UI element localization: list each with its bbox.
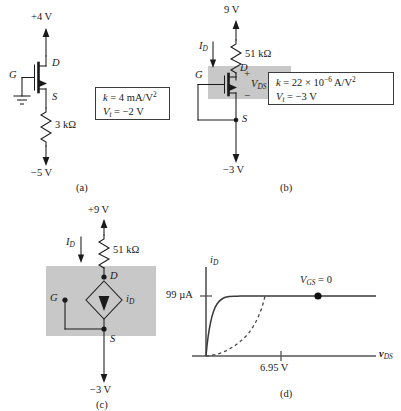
panel-a-param-vt-eq: = (114, 106, 120, 117)
panel-d-curve-dashed (206, 296, 265, 356)
panel-b-param-k-exponent: −6 (324, 75, 332, 84)
panel-b-param-k-unit: A/V (332, 77, 352, 88)
panel-b-param-k-value: 22 × 10 (292, 77, 324, 88)
panel-c-supply-top-label: +9 V (88, 205, 109, 216)
mosfet-body-arrow (39, 80, 48, 87)
panel-d-tag: (d) (280, 388, 292, 399)
panel-b-param-vt-value: −3 V (296, 91, 317, 102)
panel-b-vds-label: VDS (251, 79, 266, 90)
panel-b-param-k: k = 22 × 10−6 A/V2 (276, 76, 387, 90)
figure-canvas: +4 V D G S 3 kΩ −5 V (a) k = 4 mA/V2 Vt … (0, 0, 401, 411)
panel-c-tag: (c) (96, 399, 108, 410)
panel-a-source-label: S (52, 92, 57, 103)
panel-a-param-k: k = 4 mA/V2 (103, 91, 163, 105)
panel-a-param-vt-value: −2 V (123, 106, 144, 117)
panel-b-parameter-box: k = 22 × 10−6 A/V2 Vt = −3 V (268, 72, 394, 105)
panel-c: +9 V ID 51 kΩ D G iD S −3 V (c) (20, 205, 195, 411)
panel-c-schematic (20, 205, 195, 411)
panel-c-resistor-label: 51 kΩ (113, 245, 139, 256)
panel-c-drain-label: D (110, 271, 118, 282)
panel-b-param-k-unit-exponent: 2 (352, 75, 356, 84)
panel-d: iD vDS 99 µA 6.95 V VGS = 0 (d) (180, 255, 401, 411)
panel-b-supply-arrow-up (233, 20, 240, 29)
panel-b-gate-label: G (195, 70, 203, 81)
panel-a-param-k-value: 4 mA/V (119, 92, 153, 103)
panel-d-x-axis-label: vDS (379, 349, 393, 360)
panel-b-current-arrow (210, 60, 216, 69)
panel-d-curve-solid (206, 296, 376, 356)
panel-b-tag: (b) (280, 182, 292, 193)
panel-b-vds-plus-sign: + (244, 68, 250, 79)
panel-a-supply-bottom-label: −5 V (31, 168, 52, 179)
supply-arrow-up (43, 28, 50, 37)
panel-a-tag: (a) (76, 182, 88, 193)
panel-a-param-k-exponent: 2 (153, 90, 157, 99)
panel-c-gate-label: G (50, 293, 58, 304)
panel-c-source-arrow (99, 296, 110, 311)
panel-a-param-vt-subscript: t (109, 110, 111, 119)
panel-a-gate-label: G (9, 70, 17, 81)
panel-b-param-vt-subscript: t (282, 95, 284, 104)
panel-c-supply-arrow-down (101, 374, 108, 383)
supply-arrow-down (43, 157, 50, 166)
panel-c-source-label: S (110, 334, 115, 345)
panel-b-supply-bottom-label: −3 V (223, 165, 244, 176)
panel-c-source-current-label: iD (126, 294, 134, 305)
panel-c-current-label: ID (66, 237, 75, 248)
panel-b-param-vt-eq: = (287, 91, 293, 102)
panel-b-supply-top-label: 9 V (224, 5, 239, 16)
panel-c-gate-node-dot (62, 297, 67, 302)
panel-b-supply-arrow-down (233, 154, 240, 163)
panel-d-y-axis-label: iD (210, 255, 218, 266)
panel-b-param-k-symbol: k (276, 77, 281, 88)
panel-b-source-node-dot (234, 118, 239, 123)
panel-b-mosfet-body-arrow (229, 84, 238, 91)
panel-d-y-tick-label: 99 µA (166, 290, 193, 301)
panel-d-curve-annotation: VGS = 0 (300, 275, 332, 286)
panel-a-param-vt: Vt = −2 V (103, 105, 163, 119)
panel-a-param-k-symbol: k (103, 92, 108, 103)
panel-b-resistor-label: 51 kΩ (245, 49, 271, 60)
panel-d-x-tick-label: 6.95 V (260, 363, 288, 374)
panel-b-param-k-eq: = (283, 77, 289, 88)
panel-a-supply-top-label: +4 V (31, 12, 52, 23)
panel-c-supply-arrow-up (101, 219, 108, 228)
panel-b-source-label: S (242, 114, 247, 125)
panel-a-drain-label: D (52, 58, 60, 69)
panel-a-param-k-eq: = (110, 92, 116, 103)
panel-a-resistor-label: 3 kΩ (55, 120, 76, 131)
panel-c-supply-bottom-label: −3 V (90, 385, 111, 396)
panel-d-operating-point-dot (314, 292, 321, 299)
panel-b-param-vt: Vt = −3 V (276, 90, 387, 104)
panel-c-source-node-dot (101, 326, 106, 331)
panel-a-parameter-box: k = 4 mA/V2 Vt = −2 V (95, 87, 170, 120)
panel-b-vds-minus-sign: − (244, 90, 250, 101)
panel-b-current-label: ID (199, 41, 208, 52)
panel-c-current-arrow (78, 255, 84, 264)
panel-c-drain-node-dot (101, 274, 106, 279)
